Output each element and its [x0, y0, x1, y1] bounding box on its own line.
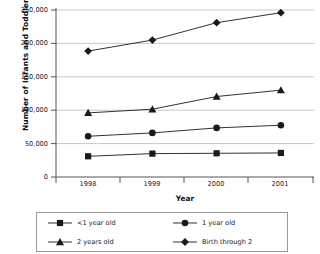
y-tick-label-0: 0	[4, 173, 48, 181]
series-2-years-old	[84, 86, 285, 116]
legend-grid: <1 year old1 year old2 years oldBirth th…	[37, 213, 287, 251]
series-1-year-old	[85, 122, 284, 140]
series-line	[88, 125, 281, 136]
data-point-0-0	[85, 153, 91, 159]
data-point-3-0	[84, 47, 92, 55]
legend-label: 1 year old	[202, 219, 235, 227]
legend-item-1-year-old[interactable]: 1 year old	[162, 218, 287, 228]
series-birth-through-2	[84, 9, 285, 55]
y-axis-title: Number of Infants and Toddlers Served	[21, 0, 30, 132]
data-series-layer	[84, 9, 285, 160]
chart-legend: <1 year old1 year old2 years oldBirth th…	[36, 212, 288, 252]
legend-label: <1 year old	[77, 219, 116, 227]
x-tick-label-2001: 2001	[248, 180, 312, 188]
legend-item-2-years-old[interactable]: 2 years old	[37, 237, 162, 247]
y-tick-label-50000: 50,000	[4, 140, 48, 148]
series--1-year-old	[85, 150, 284, 160]
data-point-3-1	[148, 36, 156, 44]
series-line	[88, 153, 281, 156]
legend-marker-circle-icon	[172, 218, 198, 228]
legend-marker-triangle-icon	[47, 237, 73, 247]
y-axis-ticks	[51, 10, 56, 177]
legend-marker-square-icon	[47, 218, 73, 228]
x-tick-label-2000: 2000	[184, 180, 248, 188]
x-axis-title: Year	[56, 194, 314, 203]
data-point-0-3	[278, 150, 284, 156]
legend-label: 2 years old	[77, 238, 114, 246]
data-point-2-3	[277, 86, 285, 93]
data-point-1-0	[85, 133, 92, 140]
data-point-1-1	[149, 130, 156, 137]
series-line	[88, 13, 281, 51]
line-chart: 250,000 200,000 150,000 100,000 50,000 0…	[0, 0, 320, 254]
series-line	[88, 90, 281, 113]
legend-marker-glyph	[182, 219, 189, 226]
legend-marker-glyph	[57, 219, 63, 225]
legend-item--1-year-old[interactable]: <1 year old	[37, 218, 162, 228]
x-tick-label-1998: 1998	[56, 180, 120, 188]
data-point-0-2	[214, 150, 220, 156]
x-tick-label-1999: 1999	[120, 180, 184, 188]
legend-label: Birth through 2	[202, 238, 252, 246]
data-point-1-2	[213, 125, 220, 132]
data-point-0-1	[149, 151, 155, 157]
legend-marker-glyph	[181, 238, 189, 246]
data-point-1-3	[278, 122, 285, 129]
legend-item-birth-through-2[interactable]: Birth through 2	[162, 237, 287, 247]
gridlines	[56, 10, 314, 144]
legend-marker-diamond-icon	[172, 237, 198, 247]
data-point-3-2	[213, 19, 221, 27]
